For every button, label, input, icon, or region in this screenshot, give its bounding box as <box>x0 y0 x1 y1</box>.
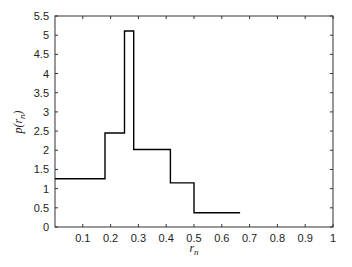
y-tick-label: 1 <box>43 183 49 195</box>
y-axis-label: p(rn) <box>11 110 27 134</box>
y-tick-label: 5 <box>43 29 49 41</box>
x-tick-label: 0.9 <box>298 232 313 244</box>
x-tick-label: 0.3 <box>131 232 146 244</box>
x-tick-label: 0.6 <box>214 232 229 244</box>
y-tick-label: 0.5 <box>34 202 49 214</box>
x-tick-label: 0.1 <box>75 232 90 244</box>
x-tick-label: 0.8 <box>270 232 285 244</box>
y-tick-label: 4 <box>43 68 49 80</box>
y-tick-label: 3 <box>43 106 49 118</box>
y-tick-label: 2 <box>43 144 49 156</box>
x-tick-label: 0.7 <box>242 232 257 244</box>
y-tick-label: 2.5 <box>34 125 49 137</box>
y-tick-label: 1.5 <box>34 163 49 175</box>
x-tick-label: 1 <box>330 232 336 244</box>
step-chart: 0.10.20.30.40.50.60.70.80.91 00.511.522.… <box>0 0 352 267</box>
y-tick-label: 0 <box>43 221 49 233</box>
y-tick-label: 4.5 <box>34 48 49 60</box>
y-tick-label: 3.5 <box>34 87 49 99</box>
y-tick-label: 5.5 <box>34 10 49 22</box>
x-tick-label: 0.4 <box>159 232 174 244</box>
x-tick-label: 0.2 <box>103 232 118 244</box>
